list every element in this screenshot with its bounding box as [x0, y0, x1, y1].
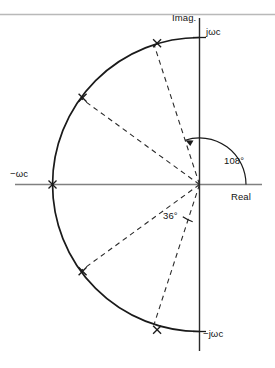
pole-markers: [49, 39, 162, 334]
imag-axis-label: Imag.: [172, 12, 196, 23]
radial-line-252deg: [154, 185, 199, 325]
angle-label-36: 36°: [163, 210, 178, 221]
pole-marker-252deg: [153, 326, 161, 334]
radial-line-108deg: [154, 45, 199, 185]
radial-line-144deg: [81, 98, 200, 185]
s-plane-diagram: [0, 0, 275, 368]
real-axis-label: Real: [231, 191, 251, 202]
pole-zero-figure: Imag. Real jωc −jωc −ωc 108° 36°: [0, 0, 275, 368]
radial-line-216deg: [81, 185, 200, 272]
jwc-tick-label: jωc: [206, 26, 221, 37]
neg-wc-tick-label: −ωc: [10, 168, 28, 179]
neg-jwc-tick-label: −jωc: [203, 328, 223, 339]
angle-arc-108-arrowhead: [186, 140, 194, 146]
angle-label-108: 108°: [224, 155, 244, 166]
